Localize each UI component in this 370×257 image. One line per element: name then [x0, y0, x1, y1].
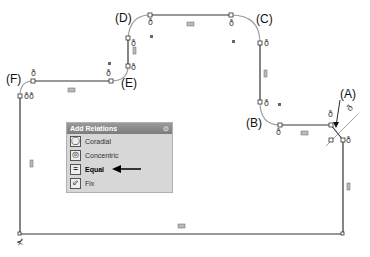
svg-text:ð: ð	[276, 128, 281, 137]
svg-text:ð: ð	[131, 39, 136, 48]
panel-header: Add Relations ⊙	[67, 123, 172, 134]
relation-concentric[interactable]: ◎ Concentric	[67, 148, 172, 162]
svg-text:ð: ð	[229, 19, 234, 28]
svg-text:ð: ð	[346, 136, 351, 145]
sketch-canvas[interactable]: ð ð ð ð ð ð ð ð ð ð ð ðð ð ⊀	[0, 0, 370, 257]
relation-coradial[interactable]: ◯ Coradial	[67, 134, 172, 148]
svg-text:ð: ð	[328, 110, 333, 119]
fix-icon: ⇙	[70, 178, 81, 189]
coradial-icon: ◯	[70, 136, 81, 147]
svg-text:ð: ð	[264, 99, 269, 108]
equal-icon: =	[70, 164, 81, 175]
callout-a: (A)	[340, 88, 356, 100]
arrow-head-icon	[333, 122, 339, 128]
add-relations-panel: Add Relations ⊙ ◯ Coradial ◎ Concentric …	[66, 122, 173, 193]
relation-label: Concentric	[85, 152, 118, 159]
relation-equal[interactable]: = Equal	[67, 162, 172, 176]
svg-text:ð: ð	[131, 63, 136, 72]
relation-label: Equal	[85, 166, 104, 173]
svg-text:ðð: ðð	[24, 92, 34, 101]
svg-text:ð: ð	[106, 69, 111, 78]
concentric-icon: ◎	[70, 150, 81, 161]
relation-fix[interactable]: ⇙ Fix	[67, 176, 172, 190]
relation-label: Fix	[85, 180, 94, 187]
callout-d: (D)	[115, 12, 132, 24]
sketch-arcs	[20, 15, 280, 125]
callout-c: (C)	[256, 13, 273, 25]
callout-e: (E)	[121, 77, 137, 89]
svg-text:ð: ð	[264, 39, 269, 48]
pin-icon[interactable]: ⊙	[163, 123, 169, 134]
panel-title: Add Relations	[70, 125, 117, 132]
relation-label: Coradial	[85, 138, 111, 145]
callout-b: (B)	[246, 117, 262, 129]
svg-text:ð: ð	[31, 69, 36, 78]
origin-icon: ⊀	[16, 237, 24, 247]
equal-icon: ð	[344, 102, 355, 113]
callout-f: (F)	[6, 73, 21, 85]
svg-text:ð: ð	[148, 18, 153, 27]
arc-b	[260, 102, 280, 125]
